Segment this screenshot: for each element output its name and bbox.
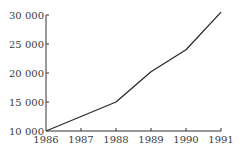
y-tick-label: 25 000: [9, 39, 44, 50]
y-tick-label: 20 000: [9, 68, 44, 79]
x-tick-label: 1986: [33, 134, 58, 145]
x-tick-label: 1988: [103, 134, 128, 145]
x-tick-label: 1991: [208, 134, 233, 145]
line-chart: 10 00015 00020 00025 00030 000 198619871…: [0, 0, 242, 153]
x-tick-label: 1987: [68, 134, 93, 145]
y-tick-label: 30 000: [9, 10, 44, 21]
data-line: [46, 12, 221, 131]
axes: [46, 15, 221, 131]
chart-svg: 10 00015 00020 00025 00030 000 198619871…: [0, 0, 242, 153]
x-tick-label: 1990: [173, 134, 198, 145]
x-tick-label: 1989: [138, 134, 163, 145]
y-axis-ticks: 10 00015 00020 00025 00030 000: [9, 10, 49, 137]
y-tick-label: 15 000: [9, 97, 44, 108]
